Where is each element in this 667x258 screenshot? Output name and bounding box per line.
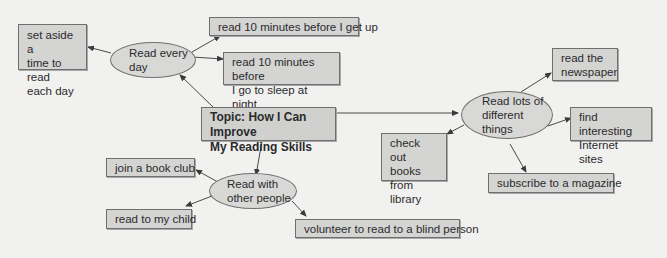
node-text: volunteer to read to a blind person: [304, 222, 479, 236]
node-text: set aside a: [27, 28, 78, 56]
node-read-with-others: Read with other people: [209, 173, 297, 209]
node-internet-sites: find interesting Internet sites: [570, 107, 652, 141]
node-before-sleep: read 10 minutes before I go to sleep at …: [223, 52, 340, 85]
node-subscribe-magazine: subscribe to a magazine: [488, 173, 614, 193]
concept-map: set aside a time to read each day Read e…: [0, 0, 667, 258]
node-text: newspaper: [561, 65, 609, 79]
node-text: library: [390, 192, 438, 206]
node-text: Read with: [227, 177, 291, 191]
node-text: read 10 minutes before I get up: [218, 20, 378, 34]
node-volunteer-blind: volunteer to read to a blind person: [295, 219, 460, 238]
topic-title: Topic: How I Can Improve: [210, 110, 327, 140]
node-text: find interesting: [579, 110, 643, 138]
node-text: each day: [27, 84, 78, 98]
node-read-to-child: read to my child: [106, 209, 192, 229]
node-library-books: check out books from library: [381, 133, 447, 181]
node-text: subscribe to a magazine: [497, 176, 622, 190]
node-text: join a book club: [115, 161, 195, 175]
topic-box: Topic: How I Can Improve My Reading Skil…: [201, 107, 336, 141]
node-text: things: [482, 122, 543, 136]
node-text: day: [129, 60, 188, 74]
topic-title: My Reading Skills: [210, 140, 327, 155]
node-read-every-day: Read every day: [110, 42, 196, 78]
node-join-book-club: join a book club: [106, 158, 195, 177]
node-text: time to read: [27, 56, 78, 84]
node-text: books from: [390, 164, 438, 192]
node-text: Read lots of: [482, 94, 543, 108]
node-text: check out: [390, 136, 438, 164]
node-text: other people: [227, 191, 291, 205]
node-text: Read every: [129, 46, 188, 60]
node-read-different-things: Read lots of different things: [461, 91, 553, 139]
node-text: Internet sites: [579, 138, 643, 166]
node-text: read 10 minutes before: [232, 55, 331, 83]
node-before-get-up: read 10 minutes before I get up: [209, 17, 359, 36]
node-set-aside-time: set aside a time to read each day: [18, 24, 87, 70]
node-text: read the: [561, 51, 609, 65]
node-text: read to my child: [115, 212, 196, 226]
node-read-newspaper: read the newspaper: [552, 48, 618, 81]
node-text: different: [482, 108, 543, 122]
